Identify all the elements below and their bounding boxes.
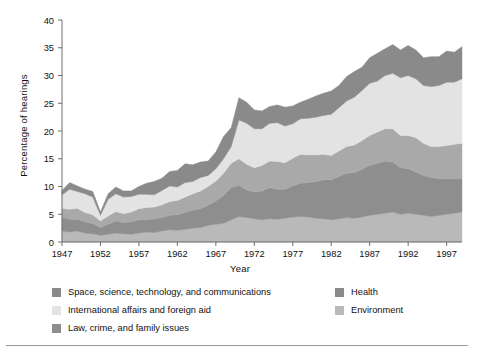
- legend-swatch-icon: [335, 288, 344, 297]
- x-tick-label: 1987: [359, 249, 380, 259]
- legend-item[interactable]: Law, crime, and family issues: [52, 320, 332, 337]
- x-tick-label: 1967: [206, 249, 227, 259]
- legend-label: Law, crime, and family issues: [68, 323, 189, 334]
- y-tick-group: 0510152025303540: [44, 16, 62, 248]
- figure-container: 0510152025303540 19471952195719621967197…: [0, 0, 480, 356]
- legend-swatch-icon: [52, 288, 61, 297]
- y-tick-label: 25: [44, 99, 54, 109]
- legend-swatch-icon: [335, 306, 344, 315]
- x-tick-label: 1952: [90, 249, 111, 259]
- x-tick-label: 1997: [436, 249, 457, 259]
- y-tick-label: 40: [44, 16, 54, 26]
- legend-label: Environment: [351, 305, 403, 316]
- legend-column-right: HealthEnvironment: [335, 284, 475, 320]
- legend-item[interactable]: Environment: [335, 302, 475, 319]
- legend-item[interactable]: International affairs and foreign aid: [52, 302, 332, 319]
- x-tick-label: 1957: [129, 249, 150, 259]
- x-axis-title: Year: [0, 263, 480, 274]
- legend-swatch-icon: [52, 306, 61, 315]
- y-tick-label: 5: [49, 210, 54, 220]
- x-tick-label: 1992: [398, 249, 419, 259]
- y-tick-label: 35: [44, 43, 54, 53]
- y-tick-label: 30: [44, 71, 54, 81]
- legend-item[interactable]: Health: [335, 284, 475, 301]
- x-tick-label: 1962: [167, 249, 188, 259]
- y-axis-title: Percentage of hearings: [18, 56, 29, 196]
- x-tick-label: 1947: [52, 249, 73, 259]
- legend-label: Space, science, technology, and communic…: [68, 287, 271, 298]
- legend-label: International affairs and foreign aid: [68, 305, 211, 316]
- x-tick-label: 1977: [282, 249, 303, 259]
- x-tick-group: 1947195219571962196719721977198219871992…: [52, 242, 457, 259]
- legend-column-left: Space, science, technology, and communic…: [52, 284, 332, 338]
- area-series-group: [62, 44, 462, 242]
- footer-divider: [6, 345, 468, 346]
- x-tick-label: 1972: [244, 249, 265, 259]
- legend-label: Health: [351, 287, 378, 298]
- y-tick-label: 0: [49, 238, 54, 248]
- legend-swatch-icon: [52, 324, 61, 333]
- y-tick-label: 10: [44, 182, 54, 192]
- legend-item[interactable]: Space, science, technology, and communic…: [52, 284, 332, 301]
- y-tick-label: 15: [44, 154, 54, 164]
- x-tick-label: 1982: [321, 249, 342, 259]
- y-tick-label: 20: [44, 127, 54, 137]
